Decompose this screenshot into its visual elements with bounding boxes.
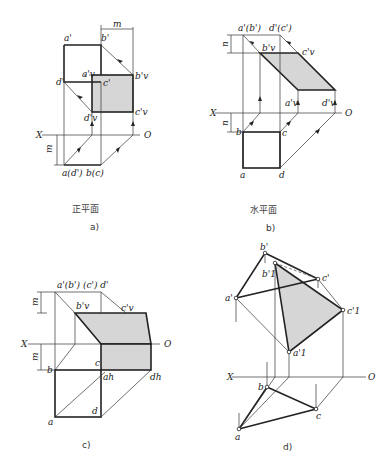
dimension-n-bottom: n — [220, 120, 230, 126]
label-av-prime: a'v — [82, 69, 95, 79]
h-diagonal — [280, 113, 335, 168]
point-a-prime — [234, 296, 238, 300]
projection-figure: X O m m a' b' c' — [0, 0, 389, 468]
label-a-d: a(d') — [62, 168, 83, 178]
x-axis-label: X — [209, 108, 217, 118]
label-bv-prime: b'v — [76, 301, 89, 311]
label-dv-prime: d'v — [322, 98, 335, 108]
label-bv-prime: b'v — [262, 43, 275, 53]
panel-d: X O b' b'1 — [225, 242, 376, 452]
rotation-line-d — [64, 82, 92, 112]
arrow-icon — [77, 147, 81, 153]
shaded-face — [275, 263, 343, 352]
label-b-prime: b' — [260, 242, 268, 252]
label-c1-prime: c'1 — [347, 306, 360, 316]
label-a: a — [48, 417, 53, 427]
label-b-prime: b' — [101, 33, 109, 43]
point-b — [265, 385, 269, 389]
label-d: d — [92, 406, 98, 416]
dimension-m-left: m — [44, 144, 54, 153]
rotation-line — [55, 292, 75, 313]
rotation-line — [243, 35, 260, 53]
panel-caption: d) — [283, 442, 292, 452]
label-a: a — [240, 170, 245, 180]
label-c: c — [282, 128, 287, 138]
label-a-prime: a' — [225, 293, 233, 303]
arrow-icon — [249, 121, 254, 126]
point-a — [237, 427, 241, 431]
arrow-icon — [116, 147, 120, 153]
label-d-prime: d' — [56, 77, 64, 87]
point-c1-prime — [341, 308, 345, 312]
label-cv-prime: c'v — [135, 107, 148, 117]
shaded-face-upper — [75, 313, 151, 344]
x-axis-label: X — [20, 339, 28, 349]
label-d-c-prime: d'(c') — [269, 23, 292, 33]
arrow-icon — [131, 121, 135, 126]
dimension-n-top: n — [220, 41, 230, 47]
label-b: b — [236, 127, 242, 137]
h-projection-triangle — [239, 387, 316, 429]
panel-b: X O n n a'(b') — [209, 23, 353, 233]
panel-subtitle: 正平面 — [72, 204, 99, 214]
o-axis-label: O — [144, 130, 152, 140]
shaded-face — [260, 53, 335, 90]
label-dh: dh — [150, 372, 162, 382]
point-b1-prime — [273, 261, 277, 265]
panel-caption: c) — [82, 440, 90, 450]
h-diagonal — [55, 344, 75, 370]
dimension-m-top: m — [113, 19, 122, 29]
label-d: d — [279, 170, 285, 180]
dimension-m-top: m — [30, 297, 40, 306]
label-bv-prime: b'v — [135, 71, 148, 81]
label-b: b — [47, 365, 53, 375]
label-a1-prime: a'1 — [293, 348, 307, 358]
point-a1-prime — [287, 350, 291, 354]
o-axis-label: O — [368, 372, 376, 382]
point-c-prime — [316, 277, 320, 281]
label-c-prime: c' — [322, 273, 330, 283]
panel-c: X O m m a'(b') (c') d' b'v c'v b c ah d — [20, 280, 172, 450]
label-a: a — [235, 432, 240, 442]
label-c-prime: c' — [103, 78, 111, 88]
label-top: a'(b') (c') d' — [57, 280, 109, 290]
panel-caption: a) — [90, 222, 99, 232]
panel-caption: b) — [266, 223, 275, 233]
label-cv-prime: c'v — [302, 47, 315, 57]
arrow-icon — [286, 41, 291, 45]
rotation-line-b — [101, 45, 133, 75]
o-axis-label: O — [164, 339, 172, 349]
x-axis-label: X — [35, 130, 43, 140]
h-diagonal — [316, 377, 343, 409]
label-ah: ah — [103, 372, 114, 382]
shaded-face-lower — [101, 344, 151, 370]
h-projection-square — [243, 132, 280, 168]
label-av-prime: a'v — [285, 98, 298, 108]
x-axis-label: X — [226, 372, 234, 382]
label-b-c: b(c) — [86, 168, 104, 178]
label-b: b — [258, 382, 264, 392]
o-axis-label: O — [345, 108, 353, 118]
label-cv-prime: c'v — [121, 303, 134, 313]
panel-a: X O m m a' b' c' — [35, 19, 152, 232]
arrow-icon — [258, 96, 262, 101]
arrow-icon — [315, 129, 320, 134]
label-c: c — [316, 411, 321, 421]
label-a-b-prime: a'(b') — [238, 23, 262, 33]
panel-subtitle: 水平面 — [250, 204, 277, 215]
h-diagonal — [239, 377, 289, 429]
label-b1-prime: b'1 — [262, 269, 276, 279]
label-dv-prime: d'v — [84, 113, 97, 123]
shaded-face — [92, 75, 133, 112]
dimension-m-bottom: m — [30, 352, 40, 361]
label-a-prime: a' — [64, 33, 72, 43]
label-c: c — [95, 358, 100, 368]
